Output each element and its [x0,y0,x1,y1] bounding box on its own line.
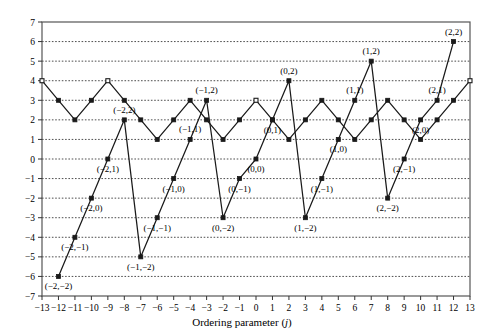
x-tick-label: −1 [234,303,244,313]
data-point-marker [205,98,209,102]
y-tick-label: −4 [25,233,35,243]
data-point-marker [320,177,324,181]
point-label: (−2,0) [80,203,102,213]
y-tick-label: 1 [30,135,35,145]
x-tick-label: 11 [432,303,441,313]
x-tick-label: 4 [319,303,324,313]
point-label: (−2,1) [97,164,119,174]
y-tick-label: −3 [25,213,35,223]
point-label: (−1,−2) [127,262,154,272]
x-tick-label: −2 [218,303,228,313]
point-label: (1,0) [330,144,347,154]
x-tick-label: −12 [51,303,66,313]
data-point-marker [303,216,307,220]
data-point-marker [188,98,192,102]
x-tick-label: 5 [336,303,341,313]
chart-svg: −7−6−5−4−3−2−101234567−13−12−11−10−9−8−7… [0,0,484,334]
data-point-marker [155,216,159,220]
x-tick-label: 13 [465,303,475,313]
point-label: (−1,−1) [144,223,171,233]
data-point-marker [402,118,406,122]
x-tick-label: 9 [402,303,407,313]
data-point-marker [353,98,357,102]
point-label: (1,2) [363,46,380,56]
x-tick-label: −7 [136,303,146,313]
x-tick-label: 7 [369,303,374,313]
x-tick-label: −11 [68,303,83,313]
point-label: (−1,2) [195,85,217,95]
point-label: (2,0) [412,125,429,135]
data-point-marker [287,79,291,83]
data-point-marker [40,79,44,83]
point-label: (1,1) [346,85,363,95]
data-point-marker [435,98,439,102]
x-tick-label: −3 [202,303,212,313]
data-point-marker [287,137,291,141]
data-point-marker [320,98,324,102]
point-label: (−1,0) [163,184,185,194]
point-label: (2,−1) [393,164,415,174]
data-point-marker [435,118,439,122]
data-point-marker [468,79,472,83]
x-tick-label: 1 [270,303,275,313]
x-tick-label: 2 [287,303,292,313]
x-tick-label: −8 [119,303,129,313]
data-point-marker [386,196,390,200]
data-point-marker [89,196,93,200]
data-point-marker [369,118,373,122]
y-tick-label: 3 [30,96,35,106]
data-point-marker [106,79,110,83]
data-point-marker [56,274,60,278]
data-point-marker [402,157,406,161]
data-point-marker [172,177,176,181]
x-axis-title: Ordering parameter (j) [0,316,484,328]
point-label: (0,1) [264,125,281,135]
x-tick-label: 10 [416,303,426,313]
data-point-marker [56,98,60,102]
x-tick-label: −6 [152,303,162,313]
data-point-marker [205,118,209,122]
x-tick-label: −5 [169,303,179,313]
data-point-marker [452,98,456,102]
x-tick-label: 0 [254,303,259,313]
data-point-marker [155,137,159,141]
x-tick-label: 3 [303,303,308,313]
data-point-marker [254,98,258,102]
data-point-marker [221,216,225,220]
x-tick-label: 12 [449,303,459,313]
data-point-marker [303,118,307,122]
point-label: (2,1) [428,85,445,95]
point-label: (−2,−1) [61,242,88,252]
x-tick-label: 8 [385,303,390,313]
data-point-marker [73,118,77,122]
data-point-marker [221,137,225,141]
x-tick-label: −9 [103,303,113,313]
y-tick-label: 2 [30,115,35,125]
data-point-marker [188,137,192,141]
point-label: (1,−1) [311,184,333,194]
data-point-marker [89,98,93,102]
x-tick-label: −10 [84,303,99,313]
point-label: (0,0) [247,164,264,174]
data-point-marker [238,177,242,181]
point-label: (2,2) [445,27,462,37]
point-label: (−2,2) [113,105,135,115]
y-tick-label: 6 [30,37,35,47]
x-tick-label: −4 [185,303,195,313]
data-point-marker [353,137,357,141]
y-tick-label: −5 [25,252,35,262]
point-label: (−2,−2) [45,281,72,291]
point-label: (0,2) [280,66,297,76]
data-point-marker [139,255,143,259]
data-point-marker [122,98,126,102]
data-point-marker [336,137,340,141]
y-tick-label: −6 [25,272,35,282]
point-label: (1,−2) [294,223,316,233]
data-point-marker [106,157,110,161]
data-point-marker [122,118,126,122]
data-point-marker [369,59,373,63]
data-point-marker [386,98,390,102]
y-tick-label: −2 [25,194,35,204]
x-tick-label: −13 [35,303,50,313]
point-label: (2,−2) [377,203,399,213]
